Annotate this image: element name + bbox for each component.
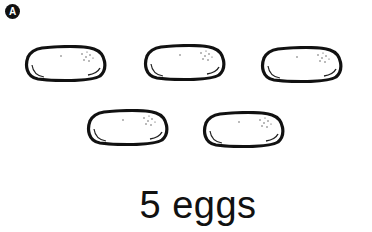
- egg-icon: [260, 46, 344, 83]
- egg-count-caption: 5 eggs: [0, 184, 372, 227]
- egg-icon: [202, 111, 286, 148]
- egg-icon: [143, 44, 227, 81]
- egg-icon: [24, 45, 108, 82]
- egg-icon: [86, 109, 170, 146]
- panel-label-badge: A: [5, 4, 20, 19]
